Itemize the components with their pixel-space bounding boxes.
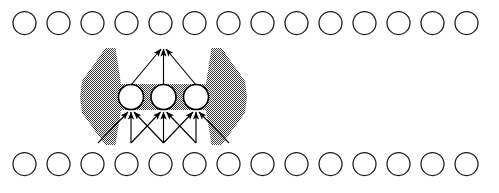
top-unit [285, 12, 308, 35]
top-unit [353, 12, 376, 35]
hidden-unit [184, 85, 209, 110]
top-unit [455, 12, 478, 35]
bottom-unit [149, 153, 172, 176]
receptive-field-region [80, 48, 121, 145]
bottom-unit [387, 153, 410, 176]
top-unit [387, 12, 410, 35]
bottom-unit [81, 153, 104, 176]
bottom-unit [353, 153, 376, 176]
input-to-hidden-arrow [164, 112, 194, 143]
bottom-unit [115, 153, 138, 176]
hidden-unit-row [119, 85, 209, 110]
top-unit [149, 12, 172, 35]
top-unit [47, 12, 70, 35]
bottom-unit [183, 153, 206, 176]
hidden-to-output-arrow [166, 49, 196, 85]
top-unit [81, 12, 104, 35]
bottom-unit [421, 153, 444, 176]
bottom-unit-row [13, 153, 478, 176]
input-to-hidden-arrow [134, 112, 164, 143]
top-unit-row [13, 12, 478, 35]
bottom-unit [251, 153, 274, 176]
top-unit [319, 12, 342, 35]
top-unit [115, 12, 138, 35]
input-to-hidden-arrow [131, 112, 161, 143]
bottom-unit [217, 153, 240, 176]
diagram-canvas [0, 0, 499, 193]
top-unit [421, 12, 444, 35]
bottom-unit [455, 153, 478, 176]
bottom-unit [319, 153, 342, 176]
top-unit [183, 12, 206, 35]
top-unit [251, 12, 274, 35]
input-to-hidden-arrow [167, 112, 197, 143]
hidden-unit [151, 85, 176, 110]
network-diagram-svg [0, 0, 499, 193]
top-unit [217, 12, 240, 35]
bottom-unit [47, 153, 70, 176]
bottom-unit [13, 153, 36, 176]
hidden-to-output-arrow [131, 49, 161, 85]
bottom-unit [285, 153, 308, 176]
hidden-unit [119, 85, 144, 110]
top-unit [13, 12, 36, 35]
receptive-field-region [206, 48, 247, 145]
hidden-to-output-arrows [131, 49, 196, 85]
